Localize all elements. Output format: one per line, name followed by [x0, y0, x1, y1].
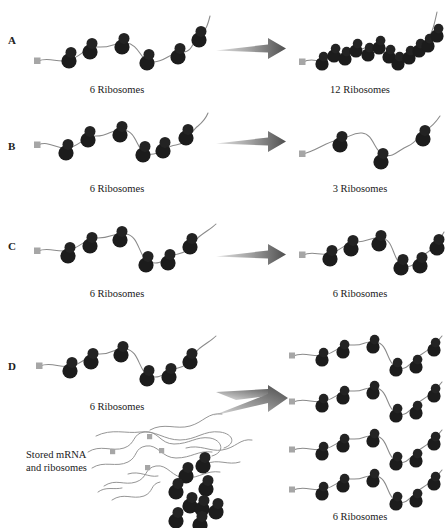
panel-a-right-polysome — [299, 12, 444, 71]
mrna-5prime-cap — [289, 447, 295, 453]
figure-canvas: A B C D 6 Ribosomes 12 Ribosomes 6 Ribos… — [0, 0, 447, 528]
panel-d-right-polysome-3 — [289, 429, 442, 471]
panel-a-left-polysome — [34, 16, 210, 71]
arrow-c — [216, 244, 286, 265]
stored-mrna-cap — [159, 448, 164, 453]
mrna-5prime-cap — [299, 59, 306, 66]
panel-b-left-polysome — [34, 113, 208, 163]
panel-d-right-polysome-4 — [289, 469, 442, 511]
mrna-5prime-cap — [34, 142, 41, 149]
arrow-b — [216, 131, 286, 152]
mrna-5prime-cap — [34, 58, 41, 65]
panel-b-right-polysome — [299, 116, 440, 170]
panel-c-left-polysome — [34, 224, 216, 273]
stored-mrna-cap — [110, 449, 115, 454]
panel-c-right-polysome — [299, 230, 445, 276]
mrna-5prime-cap — [289, 353, 295, 359]
mrna-5prime-cap — [289, 487, 295, 493]
mrna-5prime-cap — [299, 151, 306, 158]
panel-d-left-polysome — [36, 336, 216, 387]
stored-mrna-tangle — [88, 414, 252, 528]
mrna-5prime-cap — [34, 248, 41, 255]
arrow-d — [212, 385, 288, 416]
panel-d-right-polysome-2 — [289, 381, 442, 423]
mrna-5prime-cap — [289, 399, 295, 405]
free-ribosome-pool — [168, 452, 223, 528]
stored-mrna-cap — [145, 465, 150, 470]
arrow-a — [216, 38, 286, 59]
stored-mrna-cap — [147, 434, 152, 439]
panel-d-right-polysome-1 — [289, 335, 442, 377]
polysome-diagram — [0, 0, 447, 528]
mrna-5prime-cap — [36, 363, 43, 370]
mrna-5prime-cap — [299, 252, 306, 259]
